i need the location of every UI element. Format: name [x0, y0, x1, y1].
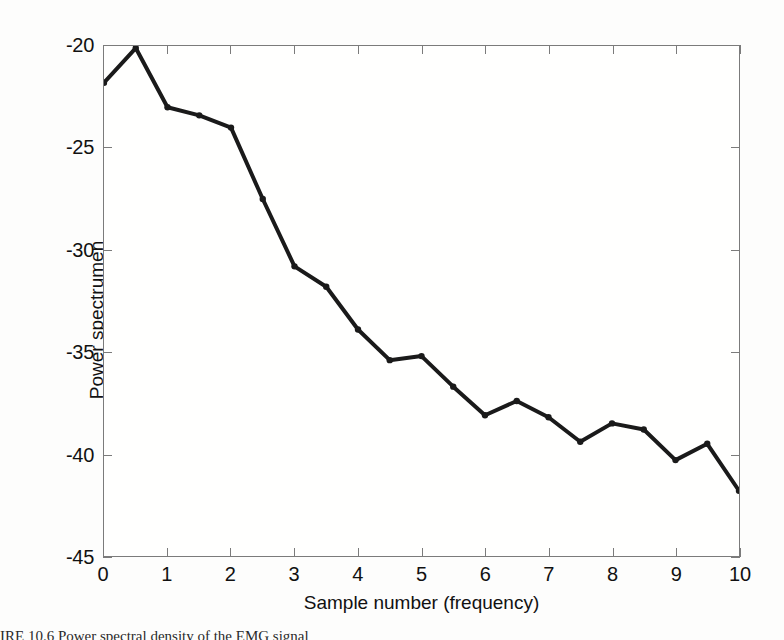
y-tick-mark: [103, 45, 112, 46]
x-tick-mark: [167, 548, 168, 557]
x-tick-mark-top: [103, 45, 104, 54]
y-tick-mark-right: [731, 352, 740, 353]
x-tick-mark: [549, 548, 550, 557]
y-tick-label: -45: [24, 546, 94, 569]
x-tick-mark: [358, 548, 359, 557]
x-tick-label: 4: [352, 563, 363, 586]
x-tick-mark: [230, 548, 231, 557]
data-point: [355, 326, 361, 332]
data-point: [672, 457, 678, 463]
data-point: [323, 284, 329, 290]
x-tick-mark-top: [549, 45, 550, 54]
x-tick-label: 10: [729, 563, 751, 586]
x-tick-mark: [103, 548, 104, 557]
x-tick-mark: [613, 548, 614, 557]
x-tick-mark-top: [485, 45, 486, 54]
y-tick-mark-right: [731, 455, 740, 456]
data-point: [260, 196, 266, 202]
x-tick-mark: [676, 548, 677, 557]
data-point: [704, 441, 710, 447]
x-tick-label: 5: [416, 563, 427, 586]
data-point-markers: [104, 46, 739, 494]
y-tick-mark: [103, 250, 112, 251]
figure-caption: IRE 10.6 Power spectral density of the E…: [0, 628, 784, 640]
x-tick-mark-top: [167, 45, 168, 54]
x-tick-label: 3: [289, 563, 300, 586]
x-tick-label: 8: [607, 563, 618, 586]
x-tick-mark-top: [294, 45, 295, 54]
x-tick-mark-top: [613, 45, 614, 54]
data-point: [228, 124, 234, 130]
y-tick-label: -35: [24, 341, 94, 364]
y-tick-mark: [103, 352, 112, 353]
x-tick-mark: [294, 548, 295, 557]
x-tick-mark: [485, 548, 486, 557]
plot-area: [103, 45, 740, 557]
data-point: [291, 263, 297, 269]
data-series-svg: [104, 46, 739, 556]
data-point: [482, 412, 488, 418]
y-tick-label: -20: [24, 34, 94, 57]
y-tick-mark: [103, 455, 112, 456]
x-tick-label: 7: [543, 563, 554, 586]
y-tick-mark-right: [731, 45, 740, 46]
x-tick-label: 1: [161, 563, 172, 586]
data-point: [196, 112, 202, 118]
x-tick-mark-top: [358, 45, 359, 54]
data-point: [609, 420, 615, 426]
x-tick-mark-top: [230, 45, 231, 54]
data-point: [387, 357, 393, 363]
y-tick-mark: [103, 557, 112, 558]
x-axis-title: Sample number (frequency): [103, 592, 740, 614]
data-point: [545, 414, 551, 420]
data-point: [164, 104, 170, 110]
y-tick-mark-right: [731, 250, 740, 251]
data-point: [450, 383, 456, 389]
x-tick-mark-top: [422, 45, 423, 54]
y-tick-mark-right: [731, 147, 740, 148]
y-tick-mark-right: [731, 557, 740, 558]
y-tick-label: -40: [24, 443, 94, 466]
figure-container: Power spectrumen -20-25-30-35-40-45 0123…: [0, 0, 784, 640]
x-tick-label: 9: [671, 563, 682, 586]
data-point: [577, 439, 583, 445]
x-tick-mark-top: [676, 45, 677, 54]
x-tick-mark: [422, 548, 423, 557]
x-tick-label: 0: [97, 563, 108, 586]
x-tick-mark: [740, 548, 741, 557]
y-tick-mark: [103, 147, 112, 148]
data-point: [418, 353, 424, 359]
x-tick-label: 6: [480, 563, 491, 586]
data-point: [514, 398, 520, 404]
y-tick-label: -30: [24, 238, 94, 261]
data-point: [641, 426, 647, 432]
x-tick-label: 2: [225, 563, 236, 586]
y-tick-label: -25: [24, 136, 94, 159]
x-tick-mark-top: [740, 45, 741, 54]
